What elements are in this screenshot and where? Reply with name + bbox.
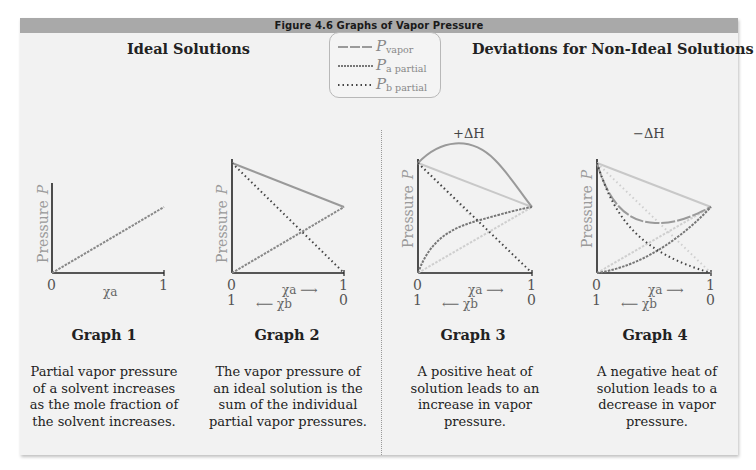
graph-4-tick-b0: 0 (706, 292, 715, 308)
graph-1-plot (52, 183, 164, 276)
graph-2-tick-a1: 1 (339, 277, 348, 293)
graph-1-y-label: PressureP (35, 185, 51, 263)
graph-2-title: Graph 2 (212, 326, 362, 343)
graph-4-plot (597, 159, 711, 276)
graph-2-tick-b1: 1 (227, 292, 236, 308)
graph-1-caption: Partial vapor pressure of a solvent incr… (26, 364, 182, 430)
graph-3-tick-b1: 1 (413, 292, 422, 308)
graph-3-x-a-label: χa ⟶ (468, 283, 503, 297)
graph-2-y-label: PressureP (214, 185, 230, 263)
graph-3-x-b-label: ⟵ χb (442, 297, 478, 311)
graph-3-plot (418, 143, 532, 276)
graph-4-y-label: PressureP (579, 170, 595, 248)
graph-4-x-a-label: χa ⟶ (648, 283, 683, 297)
graph-4-caption: A negative heat of solution leads to a d… (587, 364, 727, 430)
graph-2-x-a-label: χa ⟶ (282, 283, 317, 297)
graph-3-caption: A positive heat of solution leads to an … (400, 364, 550, 430)
graph-1-tick-1: 1 (159, 277, 168, 293)
graph-1-title: Graph 1 (29, 326, 179, 343)
graph-3-tick-b0: 0 (527, 292, 536, 308)
graph-4-tick-a1: 1 (706, 277, 715, 293)
graph-4-title: Graph 4 (580, 326, 730, 343)
graph-2-x-b-label: ⟵ χb (256, 297, 292, 311)
graph-2-caption: The vapor pressure of an ideal solution … (208, 364, 368, 430)
graph-4-tick-a0: 0 (592, 277, 601, 293)
graph-4-x-b-label: ⟵ χb (621, 297, 657, 311)
graph-3-y-label: PressureP (400, 170, 416, 248)
graph-3-title: Graph 3 (398, 326, 548, 343)
graph-2-tick-a0: 0 (227, 277, 236, 293)
graph-2-tick-b0: 0 (339, 292, 348, 308)
graph-3-tick-a0: 0 (413, 277, 422, 293)
graph-1-x-label: χa (103, 285, 117, 299)
graph-2-plot (232, 159, 344, 276)
graph-4-tick-b1: 1 (592, 292, 601, 308)
graph-1-tick-0: 0 (47, 277, 56, 293)
graph-3-tick-a1: 1 (527, 277, 536, 293)
